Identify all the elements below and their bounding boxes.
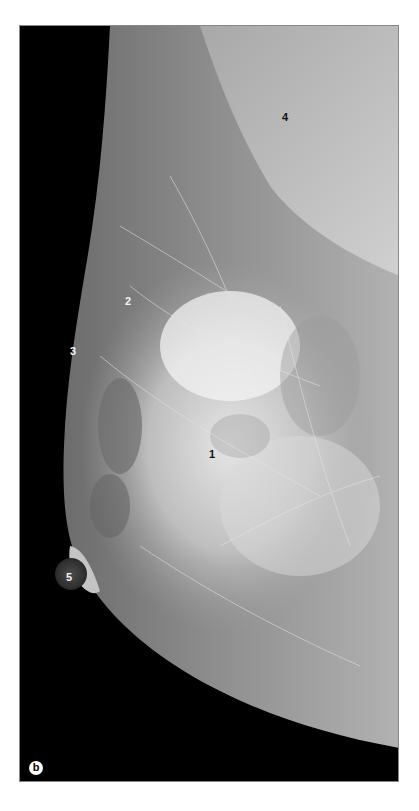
- annotation-label-1: 1: [209, 449, 215, 460]
- annotation-label-3: 3: [70, 346, 76, 357]
- breast-tissue-graphic: [20, 26, 399, 782]
- annotation-label-5: 5: [66, 572, 72, 583]
- annotation-label-2: 2: [125, 296, 131, 307]
- annotation-label-4: 4: [282, 112, 288, 123]
- panel-label-badge: b: [29, 761, 43, 775]
- mammogram-image: b: [19, 25, 399, 782]
